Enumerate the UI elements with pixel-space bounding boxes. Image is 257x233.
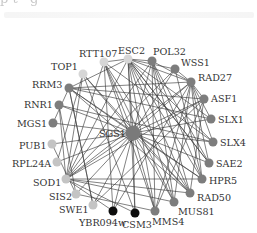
node-slx1 [207, 115, 216, 124]
node-pub1 [48, 140, 57, 149]
node-label-ybr094w: YBR094w [78, 217, 127, 228]
node-label-wss1: WSS1 [181, 57, 210, 68]
node-csm3 [131, 209, 140, 218]
node-mgs1 [49, 119, 58, 128]
node-label-rad27: RAD27 [198, 72, 232, 83]
node-label-rnr1: RNR1 [24, 99, 53, 110]
node-label-mgs1: MGS1 [17, 118, 47, 129]
node-label-sae2: SAE2 [216, 158, 243, 169]
node-label-sod1: SOD1 [33, 177, 61, 188]
node-label-rad50: RAD50 [197, 192, 231, 203]
node-sae2 [205, 159, 214, 168]
node-slx4 [209, 138, 218, 147]
node-sod1 [62, 175, 71, 184]
node-rnr1 [55, 101, 64, 110]
node-label-rtt107: RTT107 [79, 48, 117, 59]
node-label-rrm3: RRM3 [32, 79, 62, 90]
node-rad50 [186, 189, 195, 198]
node-label-slx4: SLX4 [220, 137, 246, 148]
node-label-esc2: ESC2 [118, 45, 145, 56]
node-mms4 [151, 207, 160, 216]
node-label-swe1: SWE1 [59, 204, 89, 215]
node-hpr5 [198, 175, 207, 184]
node-label-pol32: POL32 [153, 46, 186, 57]
node-pol32 [148, 57, 157, 66]
node-sgs1-hub [126, 126, 141, 141]
node-label-slx1: SLX1 [218, 114, 244, 125]
node-label-asf1: ASF1 [210, 93, 237, 104]
node-label-pub1: PUB1 [19, 140, 47, 151]
node-label-rpl24a: RPL24A [12, 158, 52, 169]
node-asf1 [200, 95, 209, 104]
interaction-network-diagram: RTT107ESC2POL32WSS1RAD27ASF1SLX1SLX4SAE2… [0, 0, 257, 233]
node-rrm3 [65, 84, 74, 93]
node-label-mms4: MMS4 [152, 216, 184, 227]
node-rad27 [187, 78, 196, 87]
node-label-hpr5: HPR5 [209, 175, 237, 186]
node-label-sgs1: SGS1 [99, 128, 126, 139]
node-top1 [79, 70, 88, 79]
node-label-csm3: CSM3 [122, 219, 152, 230]
edge-rad27-mms4 [155, 82, 191, 211]
node-label-sis2: SIS2 [49, 191, 72, 202]
node-wss1 [171, 65, 180, 74]
node-sis2 [72, 190, 81, 199]
node-ybr094w [109, 207, 118, 216]
node-swe1 [89, 201, 98, 210]
node-label-top1: TOP1 [51, 61, 78, 72]
node-rpl24a [53, 158, 62, 167]
